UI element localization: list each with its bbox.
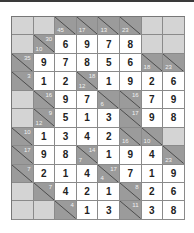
value-cell[interactable]: 8 (120, 35, 142, 53)
clue-cell: 174 (98, 165, 120, 183)
value-cell[interactable]: 8 (77, 54, 99, 72)
clue-cell: 17 (77, 17, 99, 35)
blank-cell (12, 17, 34, 35)
value-cell[interactable]: 6 (55, 35, 77, 53)
value-cell[interactable]: 2 (55, 72, 77, 90)
down-clue: 10 (36, 46, 43, 52)
value-cell[interactable]: 1 (98, 72, 120, 90)
across-clue: 17 (110, 166, 117, 172)
clue-cell: 8 (120, 183, 142, 201)
value-cell[interactable]: 9 (120, 146, 142, 164)
value-cell[interactable]: 6 (120, 54, 142, 72)
down-clue: 12 (36, 120, 43, 126)
down-clue: 23 (165, 64, 172, 70)
value-cell[interactable]: 6 (163, 183, 185, 201)
blank-cell (163, 128, 185, 146)
clue-cell: 6 (98, 91, 120, 109)
across-clue: 7 (49, 184, 52, 190)
down-clue: 23 (165, 157, 172, 163)
value-cell[interactable]: 9 (120, 72, 142, 90)
value-cell[interactable]: 3 (98, 201, 120, 219)
blank-cell (163, 35, 185, 53)
value-cell[interactable]: 1 (77, 109, 99, 127)
blank-cell (12, 201, 34, 219)
value-cell[interactable]: 1 (55, 165, 77, 183)
blank-cell (142, 17, 164, 35)
value-cell[interactable]: 3 (55, 128, 77, 146)
value-cell[interactable]: 9 (34, 146, 56, 164)
blank-cell (12, 183, 34, 201)
down-clue: 18 (144, 64, 151, 70)
value-cell[interactable]: 3 (142, 201, 164, 219)
across-clue: 4 (70, 202, 73, 208)
clue-cell: 7 (12, 165, 34, 183)
value-cell[interactable]: 8 (55, 146, 77, 164)
clue-cell: 11 (120, 201, 142, 219)
across-clue: 11 (132, 202, 138, 208)
value-cell[interactable]: 5 (55, 109, 77, 127)
across-clue: 3 (27, 73, 30, 79)
value-cell[interactable]: 7 (142, 91, 164, 109)
blank-cell (34, 17, 56, 35)
across-clue: 10 (24, 129, 31, 135)
value-cell[interactable]: 1 (34, 128, 56, 146)
clue-cell: 3 (12, 72, 34, 90)
clue-cell: 10 (12, 128, 34, 146)
blank-cell (163, 17, 185, 35)
value-cell[interactable]: 1 (77, 201, 99, 219)
down-clue: 7 (79, 157, 82, 163)
value-cell[interactable]: 2 (34, 165, 56, 183)
value-cell[interactable]: 1 (98, 146, 120, 164)
value-cell[interactable]: 2 (98, 128, 120, 146)
value-cell[interactable]: 2 (142, 72, 164, 90)
value-cell[interactable]: 5 (98, 54, 120, 72)
value-cell[interactable]: 2 (142, 183, 164, 201)
clue-cell: 18 (142, 54, 164, 72)
top-border (0, 0, 194, 2)
clue-cell: 16 (120, 91, 142, 109)
across-clue: 8 (135, 184, 138, 190)
value-cell[interactable]: 7 (120, 165, 142, 183)
clue-cell: 23 (163, 146, 185, 164)
clue-cell: 23 (120, 17, 142, 35)
value-cell[interactable]: 4 (55, 183, 77, 201)
across-clue: 18 (89, 73, 96, 79)
value-cell[interactable]: 9 (55, 91, 77, 109)
value-cell[interactable]: 2 (77, 183, 99, 201)
blank-cell (12, 35, 34, 53)
across-clue: 35 (24, 55, 31, 61)
down-clue: 10 (144, 138, 151, 144)
value-cell[interactable]: 6 (163, 72, 185, 90)
down-clue: 4 (100, 175, 103, 181)
value-cell[interactable]: 1 (142, 165, 164, 183)
clue-cell: 16 (120, 128, 142, 146)
value-cell[interactable]: 4 (142, 146, 164, 164)
value-cell[interactable]: 9 (163, 91, 185, 109)
clue-cell: 7 (34, 183, 56, 201)
value-cell[interactable]: 8 (163, 109, 185, 127)
clue-cell: 10 (142, 128, 164, 146)
value-cell[interactable]: 9 (77, 35, 99, 53)
clue-cell: 4 (55, 201, 77, 219)
value-cell[interactable]: 7 (98, 35, 120, 53)
value-cell[interactable]: 1 (98, 183, 120, 201)
clue-cell: 13 (98, 17, 120, 35)
value-cell[interactable]: 7 (55, 54, 77, 72)
value-cell[interactable]: 8 (163, 201, 185, 219)
value-cell[interactable]: 1 (34, 72, 56, 90)
kakuro-grid: 4517132330106978359785618233121812192616… (11, 16, 185, 220)
blank-cell (12, 109, 34, 127)
down-clue: 17 (79, 27, 86, 33)
value-cell[interactable]: 9 (34, 54, 56, 72)
value-cell[interactable]: 3 (98, 109, 120, 127)
clue-cell: 45 (55, 17, 77, 35)
value-cell[interactable]: 4 (77, 165, 99, 183)
value-cell[interactable]: 4 (77, 128, 99, 146)
value-cell[interactable]: 7 (77, 91, 99, 109)
across-clue: 16 (132, 92, 139, 98)
across-clue: 7 (27, 166, 30, 172)
across-clue: 30 (46, 36, 53, 42)
value-cell[interactable]: 9 (163, 165, 185, 183)
value-cell[interactable]: 9 (142, 109, 164, 127)
clue-cell: 17 (120, 109, 142, 127)
